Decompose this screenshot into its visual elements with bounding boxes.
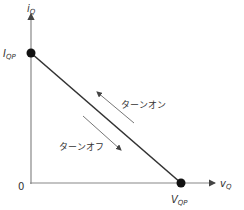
point-iqp [27,49,36,58]
switching-trajectory-diagram: iQ vQ IQP VQP 0 ターンオン ターンオフ [0,0,244,210]
turn-off-label: ターンオフ [59,142,104,152]
x-axis-label: vQ [220,178,232,191]
iqp-label: IQP [3,48,16,61]
vqp-label: VQP [171,194,188,207]
turn-on-label: ターンオン [121,100,166,110]
origin-label: 0 [18,181,24,192]
point-vqp [177,179,186,188]
y-axis-label: iQ [27,3,36,16]
trajectory-line [31,53,181,183]
